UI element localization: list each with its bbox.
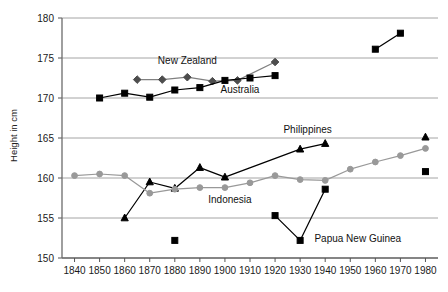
series-new-zealand-late <box>372 30 403 52</box>
y-tick-label-160: 160 <box>37 173 54 184</box>
data-point <box>197 185 203 191</box>
data-point <box>172 87 178 93</box>
data-point <box>147 190 153 196</box>
y-tick-label-150: 150 <box>37 253 54 264</box>
annotation-new-zealand: New Zealand <box>158 55 217 66</box>
series-papua-new-guinea-early <box>172 237 178 243</box>
x-tick-label-1980: 1980 <box>414 265 437 276</box>
series-papua-new-guinea-1980 <box>422 169 428 175</box>
data-point <box>297 177 303 183</box>
x-tick-label-1850: 1850 <box>88 265 111 276</box>
x-tick-label-1940: 1940 <box>314 265 337 276</box>
y-tick-label-180: 180 <box>37 13 54 24</box>
data-point <box>372 159 378 165</box>
data-point <box>272 173 278 179</box>
x-tick-label-1890: 1890 <box>189 265 212 276</box>
x-tick-label-1880: 1880 <box>164 265 187 276</box>
series-line <box>125 144 326 218</box>
data-point <box>222 185 228 191</box>
data-point <box>423 146 429 152</box>
series-line <box>375 33 400 49</box>
data-point <box>422 133 429 140</box>
y-tick-label-155: 155 <box>37 213 54 224</box>
data-point <box>234 77 242 85</box>
annotation-indonesia: Indonesia <box>208 194 252 205</box>
data-point <box>322 186 328 192</box>
y-tick-label-165: 165 <box>37 133 54 144</box>
y-tick-label-175: 175 <box>37 53 54 64</box>
annotation-papua-new-guinea: Papua New Guinea <box>314 233 401 244</box>
data-point <box>247 75 253 81</box>
data-point <box>72 173 78 179</box>
chart-container: Height in cm 150155160165170175180184018… <box>0 0 448 292</box>
x-tick-label-1860: 1860 <box>114 265 137 276</box>
data-point <box>271 58 279 66</box>
data-point <box>222 77 228 83</box>
data-point <box>122 173 128 179</box>
x-tick-label-1920: 1920 <box>264 265 287 276</box>
data-point <box>172 237 178 243</box>
x-tick-label-1840: 1840 <box>63 265 86 276</box>
series-philippines-1980 <box>422 133 429 140</box>
data-point <box>97 95 103 101</box>
data-point <box>322 178 328 184</box>
data-point <box>172 186 178 192</box>
data-point <box>122 90 128 96</box>
x-tick-label-1870: 1870 <box>139 265 162 276</box>
data-point <box>146 178 153 185</box>
data-point <box>133 76 141 84</box>
x-tick-label-1950: 1950 <box>339 265 362 276</box>
series-indonesia <box>72 146 429 197</box>
x-tick-label-1930: 1930 <box>289 265 312 276</box>
data-point <box>397 30 403 36</box>
data-point <box>97 171 103 177</box>
data-point <box>147 94 153 100</box>
data-point <box>272 213 278 219</box>
data-point <box>347 166 353 172</box>
data-point <box>158 76 166 84</box>
data-point <box>372 46 378 52</box>
data-point <box>422 169 428 175</box>
data-point <box>197 85 203 91</box>
y-tick-label-170: 170 <box>37 93 54 104</box>
data-point <box>196 164 203 171</box>
data-point <box>322 140 329 147</box>
line-chart-plot: 1501551601651701751801840185018601870188… <box>0 0 448 292</box>
x-tick-label-1910: 1910 <box>239 265 262 276</box>
data-point <box>247 180 253 186</box>
annotation-philippines: Philippines <box>283 124 331 135</box>
data-point <box>398 153 404 159</box>
x-tick-label-1970: 1970 <box>389 265 412 276</box>
annotation-australia: Australia <box>221 84 260 95</box>
series-line <box>75 148 426 193</box>
data-point <box>297 237 303 243</box>
x-tick-label-1960: 1960 <box>364 265 387 276</box>
data-point <box>272 73 278 79</box>
data-point <box>184 73 192 81</box>
x-tick-label-1900: 1900 <box>214 265 237 276</box>
